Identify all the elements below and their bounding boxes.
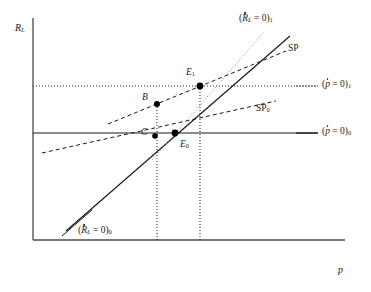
curve-SP-old [42, 101, 276, 153]
Rdot-old-symbol: R [81, 226, 87, 236]
point-E1 [197, 83, 204, 90]
curve-label-pdot0-old: (p = 0)0 [322, 127, 351, 137]
curve-label-Rdot0-new: (RL = 0)1 [239, 14, 273, 24]
point-label-C: C [141, 128, 147, 138]
y-axis-label: RL [15, 23, 25, 34]
pdot-new-symbol: p [325, 80, 330, 90]
curve-label-SP-old: SP0 [256, 104, 270, 114]
x-axis-label: p [338, 265, 343, 275]
point-B [154, 101, 160, 107]
point-C [152, 133, 158, 139]
y-axis-label-sub: L [21, 26, 25, 33]
point-E0 [172, 130, 179, 137]
point-label-E0: E0 [180, 140, 189, 150]
point-label-B: B [142, 93, 148, 103]
Rdot-new-symbol: R [242, 14, 248, 24]
curve-label-pdot0-new: (p = 0)1 [322, 80, 351, 90]
pdot-old-symbol: p [325, 127, 330, 137]
curve-label-SP-new: SP [288, 44, 299, 54]
curve-label-Rdot0-old: (RL = 0)0 [78, 226, 112, 236]
phase-diagram-figure: RL p (RL = 0)1 SP SP0 (p = 0)1 (p = 0)0 … [0, 0, 371, 292]
point-label-E1: E1 [186, 68, 195, 78]
